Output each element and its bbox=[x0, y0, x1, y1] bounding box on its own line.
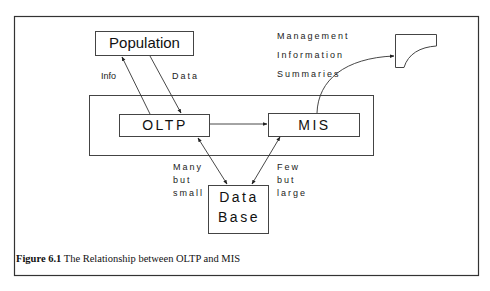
figure-caption-text: The Relationship between OLTP and MIS bbox=[61, 253, 240, 264]
mis-label: MIS bbox=[269, 116, 360, 134]
data-arrow bbox=[150, 56, 181, 113]
population-label: Population bbox=[95, 33, 194, 53]
mis-output-label: Management Information Summaries bbox=[277, 27, 350, 84]
document-icon bbox=[396, 35, 437, 68]
small-label-line: small bbox=[173, 187, 204, 200]
few-but-large-label: Few but large bbox=[277, 161, 307, 200]
oltp-label: OLTP bbox=[120, 116, 210, 134]
large-label-line: large bbox=[277, 187, 307, 200]
database-label-line2: Base bbox=[209, 208, 269, 227]
figure-caption: Figure 6.1 The Relationship between OLTP… bbox=[16, 253, 240, 264]
few-label-line: Few bbox=[277, 161, 307, 174]
but-label-line: but bbox=[173, 174, 204, 187]
mis-database-arrow bbox=[252, 137, 280, 184]
many-but-small-label: Many but small bbox=[173, 161, 204, 200]
summaries-label-line: Summaries bbox=[277, 65, 350, 84]
many-label-line: Many bbox=[173, 161, 204, 174]
but-label-line: but bbox=[277, 174, 307, 187]
info-label: Info bbox=[101, 71, 116, 81]
management-label-line: Management bbox=[277, 27, 350, 46]
data-label: Data bbox=[172, 71, 199, 81]
information-label-line: Information bbox=[277, 46, 350, 65]
info-arrow bbox=[122, 57, 150, 114]
figure-number: Figure 6.1 bbox=[16, 253, 61, 264]
database-label-line1: Data bbox=[209, 188, 269, 207]
diagram-canvas bbox=[0, 0, 490, 291]
